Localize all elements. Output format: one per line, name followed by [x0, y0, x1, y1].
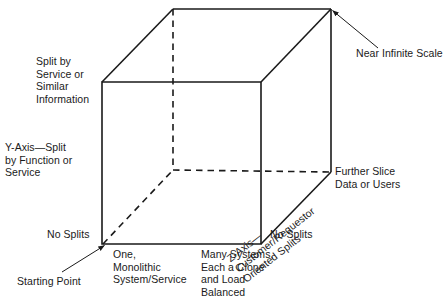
cube-top-face: [102, 9, 331, 82]
hidden-edge-back-bottom: [173, 170, 331, 172]
leader-starting-point: [62, 246, 105, 273]
edge-top-left-diagonal: [102, 9, 173, 82]
label-near-infinite-scale: Near Infinite Scale: [356, 47, 443, 60]
label-further-slice-data-or-users: Further Slice Data or Users: [335, 165, 400, 190]
leader-near-infinite-scale: [333, 11, 379, 49]
label-y-axis-title: Y-Axis—Split by Function or Service: [5, 141, 72, 179]
hidden-edge-bottom-left-diagonal: [103, 170, 173, 244]
edge-top-right-diagonal: [261, 9, 331, 82]
label-no-splits-left: No Splits: [47, 228, 89, 241]
label-starting-point: Starting Point: [17, 275, 81, 288]
cube-front-face: [102, 82, 261, 244]
label-x-axis-origin-description: One, Monolithic System/Service: [113, 248, 187, 286]
front-face-edges: [102, 82, 261, 244]
scale-cube-figure: Split by Service or Similar Information …: [0, 0, 445, 306]
label-y-axis-top-description: Split by Service or Similar Information: [36, 55, 89, 105]
